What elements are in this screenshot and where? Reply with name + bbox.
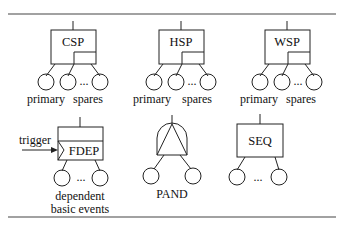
ellipsis: ... [188,74,197,88]
spares-label: spares [73,92,103,106]
priority-triangle [157,124,187,155]
dependent-event-circle [54,170,70,186]
spares-label: spares [182,92,212,106]
pand-label: PAND [156,187,188,201]
fdep-caption-line2: basic events [51,202,110,216]
wsp-gate: WSP ... primary spares [240,21,322,106]
trigger-input-marker [58,141,64,160]
arrow-head-icon [51,147,58,153]
ellipsis: ... [254,170,263,184]
fdep-caption-line1: dependent [55,189,105,203]
pand-gate: PAND [143,115,201,201]
dependent-event-circle [92,170,108,186]
spare-event-circle [306,74,322,90]
seq-gate-label: SEQ [248,134,272,148]
wsp-gate-label: WSP [274,35,300,49]
input-event-circle [271,169,287,185]
fdep-gate: FDEP trigger ... dependent basic events [19,117,109,216]
spare-event-circle [200,74,216,90]
input-event-circle [185,168,201,184]
seq-gate: SEQ ... [229,114,287,185]
primary-event-circle [252,74,268,90]
ellipsis: ... [80,74,89,88]
ellipsis: ... [294,74,303,88]
trigger-label: trigger [19,133,51,147]
spare-event-circle [92,74,108,90]
input-event-circle [229,169,245,185]
primary-label: primary [27,92,65,106]
dft-gates-diagram: CSP ... primary spares HSP ... primary s… [0,0,343,228]
primary-label: primary [240,92,278,106]
csp-gate-label: CSP [62,35,84,49]
csp-gate: CSP ... primary spares [27,21,108,106]
spare-event-circle [274,74,290,90]
spare-event-circle [60,74,76,90]
hsp-gate: HSP ... primary spares [133,21,216,106]
primary-label: primary [133,92,171,106]
fdep-gate-label: FDEP [69,144,100,158]
hsp-gate-label: HSP [170,35,193,49]
primary-event-circle [146,74,162,90]
primary-event-circle [38,74,54,90]
spares-label: spares [286,92,316,106]
ellipsis: ... [77,170,86,184]
input-event-circle [143,168,159,184]
and-gate-shape [157,123,187,155]
spare-event-circle [168,74,184,90]
